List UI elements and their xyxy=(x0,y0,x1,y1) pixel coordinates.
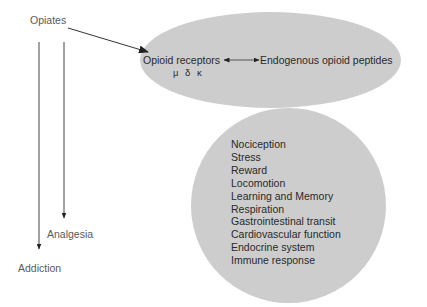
effect-item: Immune response xyxy=(231,254,341,267)
opiates-to-receptors-arrow xyxy=(68,28,148,52)
effect-item: Reward xyxy=(231,164,341,177)
effect-item: Nociception xyxy=(231,138,341,151)
analgesia-label: Analgesia xyxy=(47,229,93,240)
effect-item: Cardiovascular function xyxy=(231,228,341,241)
opiates-label: Opiates xyxy=(30,15,66,26)
addiction-label: Addiction xyxy=(18,263,61,274)
opioid-receptors-label: Opioid receptors xyxy=(143,55,220,66)
physiological-effects-list: Nociception Stress Reward Locomotion Lea… xyxy=(231,138,341,267)
effect-item: Respiration xyxy=(231,203,341,216)
diagram-canvas: Opiates Opioid receptors Endogenous opio… xyxy=(0,0,427,307)
endogenous-peptides-label: Endogenous opioid peptides xyxy=(260,55,393,66)
effect-item: Learning and Memory xyxy=(231,190,341,203)
effect-item: Endocrine system xyxy=(231,241,341,254)
effect-item: Stress xyxy=(231,151,341,164)
connector-layer xyxy=(0,0,427,307)
receptor-subtypes-label: μ δ κ xyxy=(173,68,204,78)
effect-item: Locomotion xyxy=(231,177,341,190)
effect-item: Gastrointestinal transit xyxy=(231,215,341,228)
